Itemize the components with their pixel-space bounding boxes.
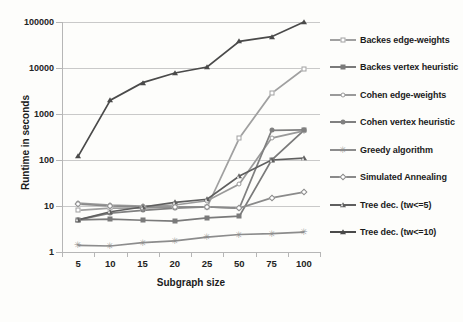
marker-asterisk: ✳ [268, 231, 276, 236]
marker-open-circle [237, 182, 242, 187]
marker-asterisk: ✳ [171, 238, 179, 243]
marker-open-triangle [140, 204, 146, 209]
marker-asterisk: ✳ [235, 232, 243, 237]
marker-open-triangle [269, 157, 275, 162]
marker-filled-triangle [269, 34, 275, 39]
line-chart: 1101001000100001000005101520255075100 Su… [0, 0, 463, 322]
marker-asterisk: ✳ [106, 244, 114, 249]
marker-open-square [301, 67, 306, 72]
marker-filled-triangle [140, 80, 146, 85]
marker-filled-circle [301, 127, 306, 132]
marker-filled-square [172, 219, 177, 224]
marker-open-triangle [204, 197, 210, 202]
marker-filled-square [237, 214, 242, 219]
marker-open-triangle [301, 155, 307, 160]
marker-asterisk: ✳ [203, 235, 211, 240]
marker-filled-triangle [172, 70, 178, 75]
marker-open-triangle [236, 173, 242, 178]
marker-open-triangle [172, 200, 178, 205]
marker-filled-square [108, 217, 113, 222]
marker-filled-triangle [204, 64, 210, 69]
marker-filled-square [205, 215, 210, 220]
marker-filled-square [140, 218, 145, 223]
marker-filled-triangle [236, 39, 242, 44]
marker-asterisk: ✳ [139, 240, 147, 245]
marker-open-square [76, 208, 81, 213]
marker-open-square [237, 136, 242, 141]
marker-filled-triangle [301, 19, 307, 24]
marker-open-triangle [75, 217, 81, 222]
marker-asterisk: ✳ [300, 230, 308, 235]
marker-filled-triangle [75, 154, 81, 159]
marker-open-circle [269, 136, 274, 141]
marker-asterisk: ✳ [74, 243, 82, 248]
marker-open-triangle [107, 209, 113, 214]
marker-open-square [269, 91, 274, 96]
marker-filled-circle [269, 128, 274, 133]
marker-filled-triangle [107, 97, 113, 102]
series-lines [0, 0, 463, 322]
